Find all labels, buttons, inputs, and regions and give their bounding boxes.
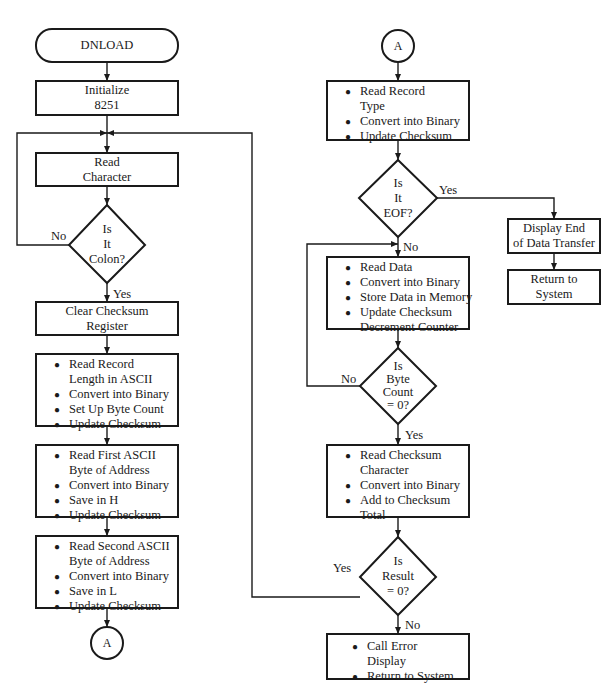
step-item: Convert into Binary <box>54 478 174 493</box>
start-label: DNLOAD <box>36 29 178 62</box>
result-no-label: No <box>405 618 420 632</box>
step-item: Length in ASCII <box>54 372 174 387</box>
step-item: Set Up Byte Count <box>54 402 174 417</box>
step-item: Character <box>345 463 467 478</box>
step-item: Byte of Address <box>54 554 174 569</box>
byte-count-yes-label: Yes <box>405 428 423 442</box>
step-item: Convert into Binary <box>54 387 174 402</box>
display-end-line: of Data Transfer <box>513 236 595 251</box>
read-data-text: Read Data Convert into Binary Store Data… <box>345 260 467 335</box>
step-item: Total <box>345 508 467 523</box>
error-box-text: Call Error Display Return to System <box>352 639 467 684</box>
decision-line: Is <box>393 176 402 191</box>
decision-line: Colon? <box>89 252 125 267</box>
eof-decision-label: Is It EOF? <box>359 160 437 237</box>
step-item: Read Data <box>345 260 467 275</box>
step-item: Save in L <box>54 584 174 599</box>
decision-line: Is <box>102 222 111 237</box>
connector-a-in-label: A <box>382 39 414 54</box>
byte-count-decision-label: Is Byte Count = 0? <box>360 348 436 424</box>
step-item: Store Data in Memory <box>345 290 467 305</box>
decision-line: Is <box>393 554 402 569</box>
step-item: Update Checksum <box>54 508 174 523</box>
colon-no-label: No <box>51 229 66 243</box>
initialize-label: Initialize 8251 <box>36 81 178 115</box>
step-item: Read First ASCII <box>54 448 174 463</box>
step-item: Add to Checksum <box>345 493 467 508</box>
decision-line: It <box>103 237 111 252</box>
return-system-line: Return to <box>531 272 578 287</box>
clear-checksum-label: Clear Checksum Register <box>36 302 178 335</box>
second-address-text: Read Second ASCII Byte of Address Conver… <box>54 539 174 614</box>
start-text: DNLOAD <box>81 38 134 53</box>
decision-line: EOF? <box>383 206 412 221</box>
read-character-line: Character <box>83 170 132 185</box>
clear-checksum-line: Register <box>86 319 128 334</box>
step-item: Return to System <box>352 669 467 684</box>
decision-line: = 0? <box>387 584 409 599</box>
step-item: Type <box>345 99 465 114</box>
record-length-text: Read Record Length in ASCII Convert into… <box>54 357 174 432</box>
step-item: Read Record <box>54 357 174 372</box>
step-item: Update Checksum <box>54 417 174 432</box>
colon-yes-label: Yes <box>113 287 131 301</box>
step-item: Byte of Address <box>54 463 174 478</box>
step-item: Read Record <box>345 84 465 99</box>
step-item: Convert into Binary <box>345 114 465 129</box>
result-yes-label: Yes <box>333 561 351 575</box>
first-address-text: Read First ASCII Byte of Address Convert… <box>54 448 174 523</box>
result-decision-label: Is Result = 0? <box>360 537 436 615</box>
step-item: Decrement Counter <box>345 320 467 335</box>
step-item: Read Second ASCII <box>54 539 174 554</box>
step-item: Convert into Binary <box>345 275 467 290</box>
step-item: Convert into Binary <box>54 569 174 584</box>
step-item: Read Checksum <box>345 448 467 463</box>
initialize-line: Initialize <box>85 83 129 98</box>
read-checksum-text: Read Checksum Character Convert into Bin… <box>345 448 467 523</box>
decision-line: = 0? <box>387 399 409 412</box>
step-item: Update Checksum <box>54 599 174 614</box>
read-character-line: Read <box>94 155 120 170</box>
decision-line: Result <box>382 569 414 584</box>
decision-line: It <box>394 191 402 206</box>
eof-no-label: No <box>403 240 418 254</box>
record-type-text: Read Record Type Convert into Binary Upd… <box>345 84 465 144</box>
step-item: Update Checksum <box>345 305 467 320</box>
connector-a-out-label: A <box>91 636 123 651</box>
return-system-label: Return to System <box>508 270 600 304</box>
clear-checksum-line: Clear Checksum <box>66 304 149 319</box>
step-item: Save in H <box>54 493 174 508</box>
colon-decision-label: Is It Colon? <box>69 205 145 283</box>
step-item: Convert into Binary <box>345 478 467 493</box>
eof-yes-label: Yes <box>439 183 457 197</box>
step-item: Display <box>352 654 467 669</box>
step-item: Call Error <box>352 639 467 654</box>
byte-count-no-label: No <box>341 372 356 386</box>
initialize-line: 8251 <box>95 98 120 113</box>
display-end-label: Display End of Data Transfer <box>508 219 600 253</box>
display-end-line: Display End <box>523 221 585 236</box>
return-system-line: System <box>536 287 573 302</box>
read-character-label: Read Character <box>36 153 178 186</box>
step-item: Update Checksum <box>345 129 465 144</box>
